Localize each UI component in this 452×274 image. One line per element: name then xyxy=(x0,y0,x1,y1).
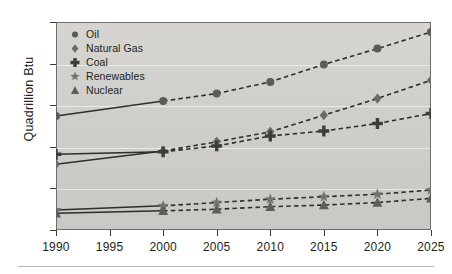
data-point-2015 xyxy=(320,60,328,68)
legend-item-nuclear[interactable]: Nuclear xyxy=(68,84,145,97)
line-history xyxy=(56,206,163,210)
line-projection xyxy=(163,114,431,152)
x-tick-label-2025: 2025 xyxy=(407,240,452,254)
x-tick-mark-2000 xyxy=(163,230,164,236)
line-history xyxy=(56,211,163,214)
data-point-2025 xyxy=(425,184,431,195)
x-tick-mark-2020 xyxy=(377,230,378,236)
legend-label: Coal xyxy=(86,56,108,69)
x-tick-label-2000: 2000 xyxy=(139,240,187,254)
chart-figure: 050100150200250 Quadrillion Btu 19901995… xyxy=(0,0,452,274)
series-renewables xyxy=(56,184,431,215)
line-history xyxy=(56,101,163,116)
legend-label: Renewables xyxy=(86,70,145,83)
x-tick-label-2010: 2010 xyxy=(246,240,294,254)
x-tick-mark-2010 xyxy=(270,230,271,236)
data-point-2015 xyxy=(318,126,329,137)
x-tick-mark-1995 xyxy=(110,230,111,236)
x-tick-label-2005: 2005 xyxy=(193,240,241,254)
x-tick-mark-2005 xyxy=(217,230,218,236)
y-tick-mark-250 xyxy=(50,22,56,23)
chart-legend: OilNatural GasCoalRenewablesNuclear xyxy=(68,28,145,97)
x-tick-label-2015: 2015 xyxy=(300,240,348,254)
legend-label: Nuclear xyxy=(86,84,123,97)
data-point-2005 xyxy=(213,90,221,98)
bottom-divider xyxy=(18,266,434,267)
data-point-2010 xyxy=(265,131,276,142)
legend-item-coal[interactable]: Coal xyxy=(68,56,145,69)
y-tick-mark-150 xyxy=(50,105,56,106)
line-projection xyxy=(163,32,431,101)
data-point-2025 xyxy=(427,28,431,36)
x-tick-label-2020: 2020 xyxy=(353,240,401,254)
data-point-1990 xyxy=(56,159,60,169)
data-point-2020 xyxy=(373,45,381,53)
triangle-marker-icon xyxy=(68,84,82,97)
data-point-2020 xyxy=(372,118,383,129)
x-tick-label-1995: 1995 xyxy=(86,240,134,254)
x-tick-mark-2025 xyxy=(431,230,432,236)
legend-label: Natural Gas xyxy=(86,42,143,55)
data-point-1990 xyxy=(56,149,61,160)
data-point-2015 xyxy=(320,110,328,120)
line-projection xyxy=(163,198,431,210)
data-point-2025 xyxy=(427,75,431,85)
data-point-2020 xyxy=(373,93,381,103)
x-tick-mark-1990 xyxy=(56,230,57,236)
data-point-2000 xyxy=(158,146,169,157)
x-tick-label-1990: 1990 xyxy=(32,240,80,254)
data-point-2010 xyxy=(266,78,274,86)
line-projection xyxy=(163,80,431,151)
star-marker-icon xyxy=(68,70,82,83)
data-point-1990 xyxy=(56,112,60,120)
series-coal xyxy=(56,108,431,160)
line-projection xyxy=(163,190,431,206)
y-tick-mark-50 xyxy=(50,188,56,189)
data-point-2025 xyxy=(426,108,431,119)
legend-item-natural-gas[interactable]: Natural Gas xyxy=(68,42,145,55)
data-point-2000 xyxy=(159,97,167,105)
legend-item-renewables[interactable]: Renewables xyxy=(68,70,145,83)
diamond-marker-icon xyxy=(68,42,82,55)
y-axis-label: Quadrillion Btu xyxy=(22,14,36,184)
y-tick-mark-200 xyxy=(50,64,56,65)
circle-marker-icon xyxy=(68,28,82,41)
legend-item-oil[interactable]: Oil xyxy=(68,28,145,41)
legend-label: Oil xyxy=(86,28,99,41)
plus-marker-icon xyxy=(68,56,82,69)
y-tick-mark-100 xyxy=(50,147,56,148)
x-tick-mark-2015 xyxy=(324,230,325,236)
